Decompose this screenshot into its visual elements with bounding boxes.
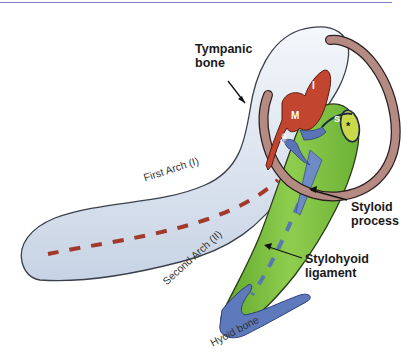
incus-label: I (312, 80, 315, 91)
asterisk-label: * (346, 120, 350, 132)
stylohyoid-ligament-label: Stylohyoid ligament (305, 252, 369, 280)
tympanic-bone-label: Tympanic bone (195, 42, 252, 70)
styloid-process-label: Styloid process (351, 200, 399, 228)
malleus-label: M (291, 110, 299, 121)
stapes-label: S (334, 114, 340, 124)
